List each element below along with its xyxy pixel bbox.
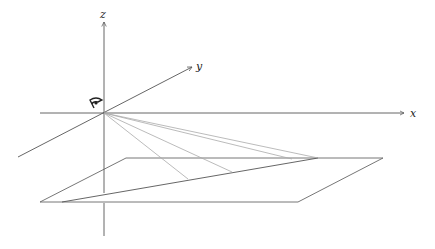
perspective-diagram: z x y: [0, 0, 435, 249]
projection-rays: [104, 113, 318, 179]
y-axis-label: y: [195, 60, 203, 73]
y-axis: y: [18, 60, 203, 157]
eye-icon: [90, 98, 102, 108]
z-axis-label: z: [99, 8, 106, 21]
x-axis-label: x: [410, 107, 417, 120]
plane-line: [62, 158, 318, 202]
x-axis: x: [40, 107, 417, 120]
ground-plane: [40, 158, 383, 202]
